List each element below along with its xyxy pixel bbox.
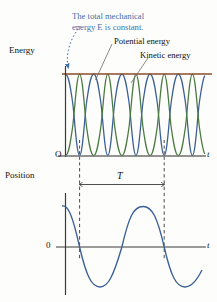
energy-time-axis-label: t	[207, 150, 210, 159]
energy-origin-label: O	[55, 150, 62, 159]
position-curve	[62, 206, 202, 287]
total-energy-annotation-line1: The total mechanical	[72, 12, 144, 21]
position-axis-label: Position	[5, 171, 35, 180]
total-energy-annotation-arrow	[67, 26, 80, 69]
energy-panel	[58, 26, 212, 168]
position-time-axis-label: t	[207, 241, 210, 250]
shm-energy-position-figure: The total mechanical energy E is constan…	[0, 0, 217, 302]
period-label: T	[117, 171, 123, 181]
position-panel	[56, 168, 206, 295]
total-energy-annotation-line2: energy E is constant.	[72, 23, 143, 32]
energy-axis-label: Energy	[9, 46, 35, 55]
potential-energy-curve	[66, 74, 205, 156]
potential-energy-label: Potential energy	[114, 37, 170, 46]
kinetic-energy-label: Kinetic energy	[140, 51, 191, 60]
kinetic-energy-leader	[131, 58, 148, 83]
kinetic-energy-curve	[66, 74, 205, 156]
position-origin-label: 0	[46, 241, 51, 250]
